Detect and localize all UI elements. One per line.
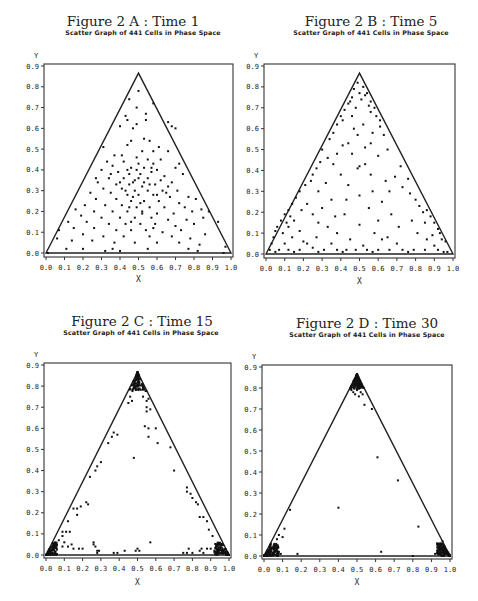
data-point xyxy=(173,213,175,215)
data-point xyxy=(317,222,319,224)
data-point xyxy=(150,167,152,169)
data-point xyxy=(162,190,164,192)
data-point xyxy=(274,251,276,253)
data-point xyxy=(387,236,389,238)
data-point xyxy=(345,199,347,201)
data-point xyxy=(71,543,73,545)
data-point xyxy=(202,217,204,219)
cluster-point xyxy=(441,547,443,549)
data-point xyxy=(156,169,158,171)
data-point xyxy=(163,175,165,177)
data-point xyxy=(388,190,390,192)
y-tick-label: 0.9 xyxy=(246,63,259,71)
data-point xyxy=(175,127,177,129)
cluster-point xyxy=(357,382,359,384)
data-point xyxy=(152,194,154,196)
data-point xyxy=(175,225,177,227)
data-point xyxy=(446,251,448,253)
data-point xyxy=(271,243,273,245)
x-tick-label: 1.0 xyxy=(444,566,457,574)
data-point xyxy=(136,156,138,158)
data-point xyxy=(437,249,439,251)
data-point xyxy=(182,552,184,554)
y-tick-label: 0.3 xyxy=(26,488,39,496)
data-point xyxy=(91,240,93,242)
data-point xyxy=(415,199,417,201)
data-point xyxy=(93,541,95,543)
y-tick-label: 0.8 xyxy=(246,83,259,91)
data-point xyxy=(347,103,349,105)
data-point xyxy=(158,200,160,202)
data-point xyxy=(113,242,115,244)
data-point xyxy=(76,514,78,516)
data-point xyxy=(422,211,424,213)
x-tick-label: 0.4 xyxy=(334,265,347,273)
data-point xyxy=(149,408,151,410)
data-point xyxy=(82,248,84,250)
data-point xyxy=(119,181,121,183)
data-point xyxy=(304,184,306,186)
cluster-point xyxy=(268,548,270,550)
cluster-point xyxy=(129,388,131,390)
data-point xyxy=(325,182,327,184)
data-point xyxy=(128,98,130,100)
data-point xyxy=(187,196,189,198)
data-point xyxy=(368,207,370,209)
data-point xyxy=(284,243,286,245)
data-point xyxy=(96,552,98,554)
data-point xyxy=(377,220,379,222)
data-point xyxy=(417,526,419,528)
cluster-point xyxy=(134,380,136,382)
scatter-plot: 0.00.10.20.30.40.50.60.70.80.90.00.10.20… xyxy=(0,0,240,300)
x-tick-label: 0.9 xyxy=(428,265,441,273)
data-point xyxy=(69,531,71,533)
y-tick-label: 0.8 xyxy=(26,83,39,91)
data-point xyxy=(146,410,148,412)
data-point xyxy=(128,183,130,185)
data-point xyxy=(149,541,151,543)
data-point xyxy=(130,221,132,223)
data-point xyxy=(95,177,97,179)
data-point xyxy=(141,210,143,212)
cluster-point xyxy=(139,378,141,380)
cluster-point xyxy=(215,546,217,548)
figure-2c-panel: Figure 2 C : Time 15 Scatter Graph of 44… xyxy=(0,300,240,601)
data-point xyxy=(186,219,188,221)
data-point xyxy=(136,123,138,125)
data-point xyxy=(119,250,121,252)
data-point xyxy=(381,201,383,203)
y-tick-label: 0.3 xyxy=(244,490,257,498)
data-point xyxy=(283,528,285,530)
data-point xyxy=(112,248,114,250)
data-point xyxy=(156,194,158,196)
data-point xyxy=(134,242,136,244)
x-tick-label: 0.5 xyxy=(132,264,145,272)
data-point xyxy=(154,183,156,185)
cluster-point xyxy=(360,385,362,387)
data-point xyxy=(119,217,121,219)
data-point xyxy=(195,501,197,503)
data-point xyxy=(362,245,364,247)
x-tick-label: 0.2 xyxy=(77,264,90,272)
figure-2d-panel: Figure 2 D : Time 30 Scatter Graph of 44… xyxy=(240,300,478,601)
cluster-point xyxy=(219,547,221,549)
data-point xyxy=(336,153,338,155)
data-point xyxy=(104,204,106,206)
data-point xyxy=(135,550,137,552)
data-point xyxy=(144,425,146,427)
data-point xyxy=(312,247,314,249)
data-point xyxy=(345,249,347,251)
cluster-point xyxy=(216,548,218,550)
data-point xyxy=(360,391,362,393)
cluster-point xyxy=(444,548,446,550)
x-tick-label: 0.7 xyxy=(391,265,404,273)
boundary-triangle xyxy=(46,372,229,555)
data-point xyxy=(87,503,89,505)
data-point xyxy=(402,249,404,251)
data-point xyxy=(145,119,147,121)
data-point xyxy=(357,82,359,84)
data-point xyxy=(372,132,374,134)
data-point xyxy=(390,213,392,215)
cluster-point xyxy=(49,549,51,551)
data-point xyxy=(362,393,364,395)
